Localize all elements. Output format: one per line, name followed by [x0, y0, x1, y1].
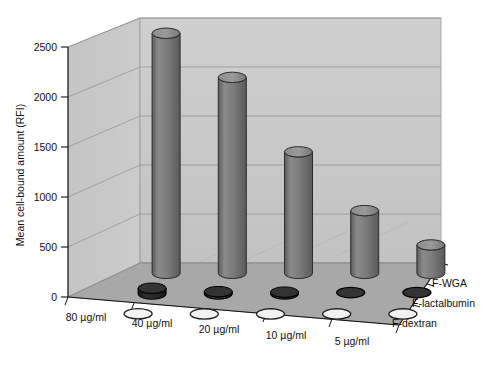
- cylinder-f-wga-4: [417, 240, 445, 279]
- cylinder-top: [204, 286, 232, 296]
- cylinder-f-wga-1: [218, 72, 246, 278]
- cylinder-body: [285, 152, 313, 279]
- y-tick-label-1000: 1000: [34, 191, 58, 203]
- x-tick-label-2: 20 µg/ml: [199, 323, 239, 335]
- cylinder-top: [337, 287, 365, 297]
- chart-figure: 2500 2000 1500 1000 500 0 Mean cell-boun…: [0, 0, 499, 368]
- series-label-f-wga: F-WGA: [432, 277, 467, 289]
- cylinder-f-lactalbumin-3: [337, 287, 365, 297]
- cylinder-body: [218, 77, 246, 278]
- x-tick-label-3: 10 µg/ml: [266, 329, 306, 341]
- cylinder-top: [403, 287, 431, 297]
- cylinder-f-lactalbumin-0: [138, 283, 166, 299]
- cylinder-f-lactalbumin-1: [204, 286, 232, 299]
- cylinder-top: [323, 309, 351, 319]
- series-label-f-lactalbumin: F-lactalbumin: [412, 297, 475, 309]
- cylinder-f-lactalbumin-4: [403, 287, 431, 297]
- cylinder-f-wga-3: [351, 205, 379, 278]
- cylinder-f-wga-0: [152, 28, 180, 279]
- cylinder-top: [218, 72, 246, 82]
- cylinder-top: [389, 309, 417, 319]
- left-wall: [68, 18, 140, 297]
- cylinder-f-wga-2: [285, 147, 313, 279]
- y-tick-label-0: 0: [51, 291, 57, 303]
- cylinder-f-dextran-1: [190, 309, 218, 319]
- x-tick-label-4: 5 µg/ml: [335, 335, 370, 347]
- cylinder-top: [124, 309, 152, 319]
- cylinder-top: [351, 205, 379, 215]
- floor-panel: [68, 263, 441, 325]
- cylinder-top: [271, 287, 299, 297]
- cylinder-top: [152, 28, 180, 38]
- y-tick-label-500: 500: [39, 241, 57, 253]
- cylinder-top: [257, 309, 285, 319]
- x-tick-label-0: 80 µg/ml: [66, 311, 106, 323]
- x-tick-0: [65, 297, 68, 305]
- cylinder-top: [138, 283, 166, 293]
- cylinder-body: [152, 33, 180, 278]
- cylinder-top: [285, 147, 313, 157]
- x-tick-4: [329, 319, 332, 327]
- cylinder-f-dextran-0: [124, 309, 152, 319]
- cylinder-f-lactalbumin-2: [271, 287, 299, 299]
- cylinder-top: [190, 309, 218, 319]
- y-tick-label-2500: 2500: [34, 41, 58, 53]
- cylinder-f-dextran-4: [389, 309, 417, 319]
- y-axis-title: Mean cell-bound amount (RFI): [14, 104, 26, 246]
- cylinder-body: [351, 211, 379, 279]
- chart-svg: 2500 2000 1500 1000 500 0 Mean cell-boun…: [0, 0, 499, 368]
- cylinder-f-dextran-3: [323, 309, 351, 319]
- y-axis: 2500 2000 1500 1000 500 0 Mean cell-boun…: [14, 41, 68, 303]
- y-tick-label-2000: 2000: [34, 91, 58, 103]
- cylinder-top: [417, 240, 445, 250]
- y-tick-label-1500: 1500: [34, 141, 58, 153]
- cylinder-f-dextran-2: [257, 309, 285, 319]
